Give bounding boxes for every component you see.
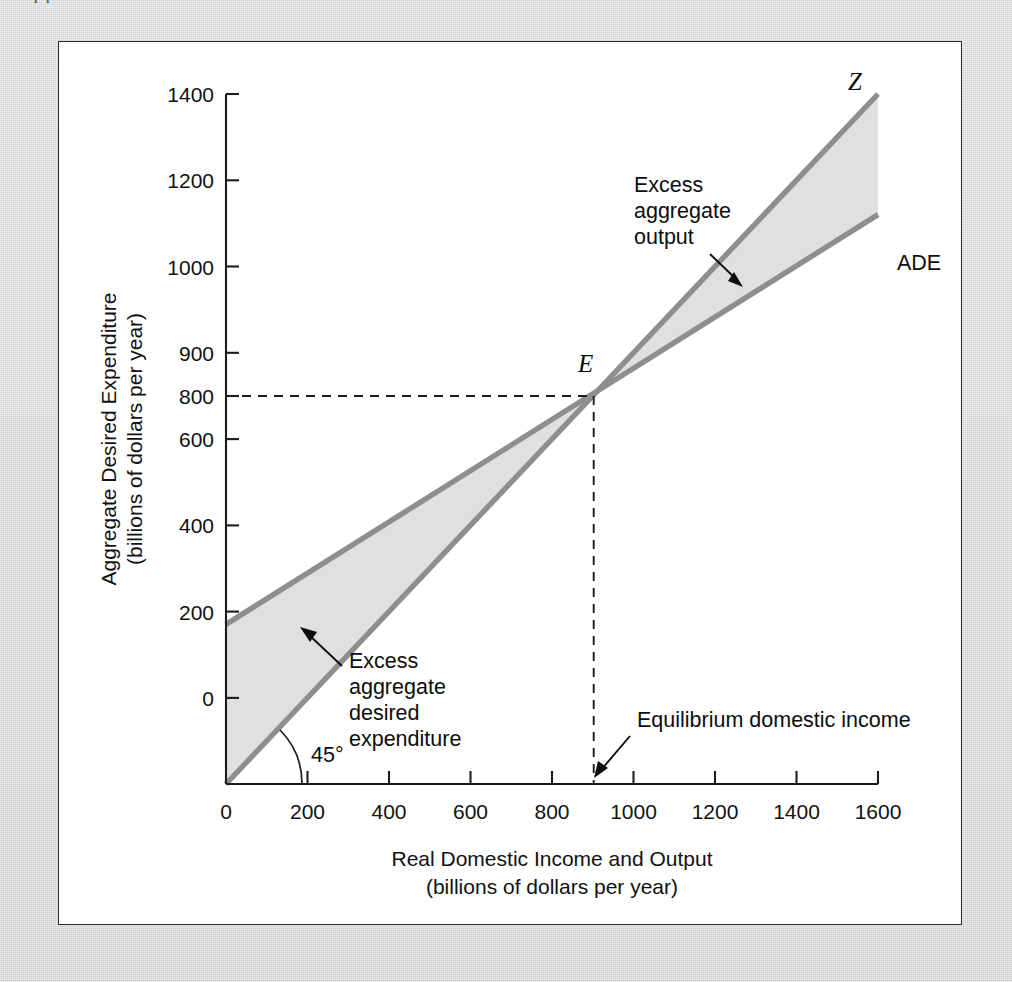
- excess-expenditure-line1: Excess: [349, 649, 418, 673]
- angle-arc: [280, 730, 302, 784]
- y-axis-title: Aggregate Desired Expenditure (billions …: [97, 292, 146, 585]
- z-line-label: Z: [848, 68, 863, 95]
- y-tick-label: 600: [179, 428, 214, 451]
- y-tick-label: 1200: [167, 169, 214, 192]
- equilibrium-point-label: E: [577, 350, 593, 377]
- y-tick-label: 400: [179, 514, 214, 537]
- ade-line: [226, 215, 878, 625]
- excess-output-line3: output: [634, 225, 694, 249]
- x-tick-label: 600: [453, 800, 488, 823]
- y-tick-label: 1000: [167, 256, 214, 279]
- x-tick-label: 200: [290, 800, 325, 823]
- y-tick-label: 200: [179, 601, 214, 624]
- y-axis-tick-labels: 1400 1200 1000 900 800 600 400 200 0: [167, 83, 214, 710]
- top-text-fragment-label: p p: [34, 0, 1012, 4]
- excess-expenditure-line4: expenditure: [349, 727, 461, 751]
- y-tick-label: 800: [179, 385, 214, 408]
- y-tick-label: 0: [202, 687, 214, 710]
- x-tick-label: 1200: [692, 800, 739, 823]
- angle-marker-45: 45°: [280, 730, 344, 784]
- x-tick-label: 400: [371, 800, 406, 823]
- x-axis-tick-labels: 0 200 400 600 800 1000 1200 1400 1600: [220, 800, 901, 823]
- equilibrium-income-label: Equilibrium domestic income: [637, 708, 911, 732]
- y-axis-ticks: [226, 94, 239, 698]
- figure-frame: 1400 1200 1000 900 800 600 400 200 0 0 2…: [58, 41, 962, 925]
- y-tick-label: 900: [179, 342, 214, 365]
- annotation-excess-aggregate-output: Excess aggregate output: [634, 173, 743, 287]
- z-line-45-degree: [226, 94, 878, 784]
- x-tick-label: 1600: [855, 800, 902, 823]
- chart-canvas: 1400 1200 1000 900 800 600 400 200 0 0 2…: [59, 42, 960, 923]
- x-axis-title-line1: Real Domestic Income and Output: [392, 847, 713, 870]
- x-tick-label: 800: [534, 800, 569, 823]
- equilibrium-income-leader: [601, 736, 630, 770]
- x-tick-label: 1000: [610, 800, 657, 823]
- page-top-text-fragment: p p: [0, 0, 1012, 16]
- x-tick-label: 1400: [773, 800, 820, 823]
- excess-output-line2: aggregate: [634, 199, 731, 223]
- x-axis-title-line2: (billions of dollars per year): [426, 875, 678, 898]
- y-axis-title-line2: (billions of dollars per year): [123, 313, 146, 565]
- excess-expenditure-line3: desired: [349, 701, 420, 725]
- annotation-equilibrium-domestic-income: Equilibrium domestic income: [594, 708, 911, 778]
- ade-line-label: ADE: [897, 251, 941, 275]
- excess-output-line1: Excess: [634, 173, 703, 197]
- angle-label-45: 45°: [311, 743, 344, 767]
- excess-expenditure-line2: aggregate: [349, 675, 446, 699]
- y-tick-label: 1400: [167, 83, 214, 106]
- x-tick-label: 0: [220, 800, 232, 823]
- y-axis-title-line1: Aggregate Desired Expenditure: [97, 292, 120, 585]
